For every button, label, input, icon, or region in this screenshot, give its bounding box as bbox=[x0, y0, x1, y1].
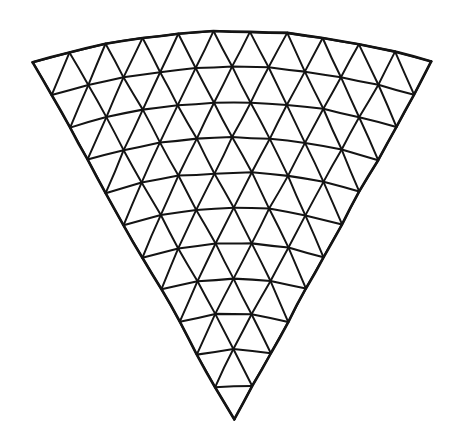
mesh-left-diagonal-10 bbox=[395, 52, 414, 95]
mesh-right-diagonal-9 bbox=[70, 44, 105, 128]
sector-top-arc bbox=[33, 31, 432, 62]
mesh-arc-row-5 bbox=[142, 243, 323, 257]
mesh-arc-row-3 bbox=[180, 314, 288, 322]
geodesic-sector-figure bbox=[0, 0, 455, 447]
mesh-right-diagonal-10 bbox=[52, 53, 70, 95]
mesh-left-diagonal-7 bbox=[287, 33, 359, 192]
mesh-right-diagonal-7 bbox=[106, 34, 179, 193]
sector-outline-group bbox=[33, 31, 432, 419]
left-diagonal-lines-group bbox=[33, 31, 414, 419]
mesh-arc-row-9 bbox=[70, 102, 396, 127]
sector-left-edge bbox=[33, 62, 235, 419]
mesh-arc-row-8 bbox=[88, 137, 379, 160]
geodesic-mesh-svg bbox=[0, 0, 455, 447]
mesh-arc-row-1 bbox=[215, 386, 252, 387]
mesh-arc-row-10 bbox=[52, 66, 414, 95]
mesh-left-diagonal-2 bbox=[106, 44, 271, 353]
sector-right-edge bbox=[234, 61, 431, 419]
